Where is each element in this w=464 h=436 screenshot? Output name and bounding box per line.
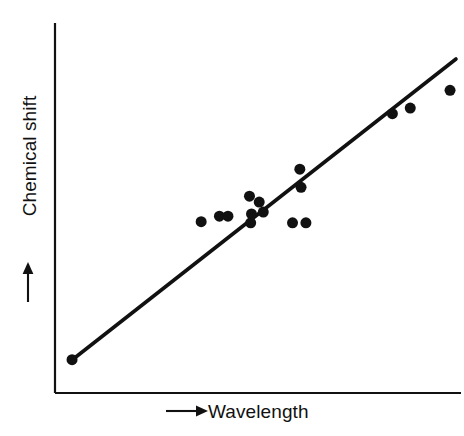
y-axis-label-container: Chemical shift bbox=[0, 0, 40, 300]
data-point bbox=[244, 191, 255, 202]
data-point bbox=[294, 164, 305, 175]
data-point bbox=[67, 354, 78, 365]
data-point bbox=[258, 207, 269, 218]
data-points-group bbox=[67, 85, 456, 365]
y-axis-label: Chemical shift bbox=[19, 46, 41, 266]
data-point bbox=[196, 216, 207, 227]
data-point bbox=[387, 108, 398, 119]
data-point bbox=[245, 217, 256, 228]
data-point bbox=[445, 85, 456, 96]
plot-canvas bbox=[0, 0, 464, 436]
data-point bbox=[222, 211, 233, 222]
x-axis-arrow-icon bbox=[166, 406, 208, 417]
data-point bbox=[287, 217, 298, 228]
data-point bbox=[254, 197, 265, 208]
scatter-plot-figure: Wavelength Chemical shift bbox=[0, 0, 464, 436]
data-point bbox=[300, 217, 311, 228]
data-point bbox=[405, 103, 416, 114]
data-point bbox=[296, 182, 307, 193]
x-axis-label: Wavelength bbox=[208, 401, 309, 423]
